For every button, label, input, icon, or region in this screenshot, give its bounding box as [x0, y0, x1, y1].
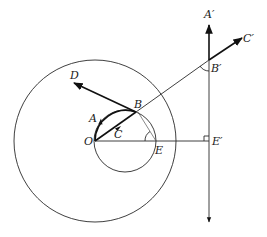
ray-b-d	[74, 83, 136, 112]
label-a-prime: A′	[203, 8, 215, 21]
label-e: E	[154, 144, 163, 157]
label-c: C	[114, 128, 123, 141]
label-b-prime: B′	[210, 62, 222, 75]
label-o: O	[84, 135, 93, 148]
angle-arc-bprime	[200, 66, 209, 71]
label-c-prime: C′	[243, 32, 254, 45]
label-a: A	[88, 112, 97, 125]
segment-b-bprime	[136, 60, 209, 112]
label-d: D	[69, 69, 79, 82]
geometry-diagram: A′ C′ B′ D B A C O E E′	[0, 0, 267, 237]
label-b: B	[133, 98, 142, 111]
label-e-prime: E′	[211, 135, 223, 148]
chord-b-e	[138, 112, 156, 141]
right-angle-mark	[204, 136, 209, 141]
angle-arc-e	[145, 132, 150, 142]
ray-bprime-cprime	[209, 38, 242, 60]
